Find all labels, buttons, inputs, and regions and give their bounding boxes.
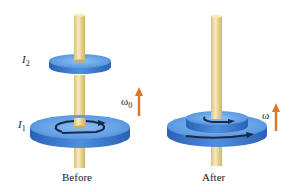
caption-after: After	[202, 171, 225, 183]
diagram	[0, 0, 291, 192]
label-omega0: ω0	[121, 95, 132, 110]
after-apparatus	[167, 15, 280, 167]
caption-before: Before	[62, 171, 92, 183]
before-apparatus	[30, 14, 143, 169]
label-omega: ω	[262, 109, 269, 121]
label-i2: I2	[22, 53, 30, 68]
label-i1: I1	[18, 118, 26, 133]
